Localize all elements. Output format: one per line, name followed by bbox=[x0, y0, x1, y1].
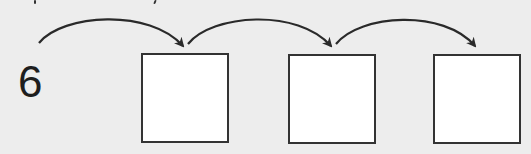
arrow-box-1-to-box-2 bbox=[188, 19, 331, 46]
answer-box-1[interactable] bbox=[141, 53, 229, 143]
answer-box-3[interactable] bbox=[433, 54, 521, 144]
arrow-start-to-box-1 bbox=[39, 19, 183, 46]
cropped-text-fragment bbox=[153, 0, 156, 4]
answer-box-2[interactable] bbox=[288, 54, 376, 144]
cropped-text-fragment bbox=[34, 0, 36, 4]
start-number: 6 bbox=[18, 60, 42, 104]
arrow-box-2-to-box-3 bbox=[336, 20, 475, 46]
